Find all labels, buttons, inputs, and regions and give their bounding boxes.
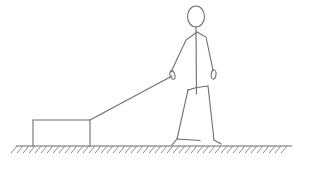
- ground-hatch-line: [71, 146, 77, 153]
- ground-hatch-line: [101, 146, 107, 153]
- ground-hatch-line: [149, 146, 155, 153]
- ground-hatching: [11, 146, 287, 153]
- ground-hatch-line: [203, 146, 209, 153]
- person-group: [169, 6, 221, 145]
- ground-hatch-line: [155, 146, 161, 153]
- right-leg-line: [208, 86, 214, 140]
- left-hand-shape: [169, 70, 176, 80]
- ground-hatch-line: [143, 146, 149, 153]
- ground-hatch-line: [167, 146, 173, 153]
- ground-hatch-line: [113, 146, 119, 153]
- ground-hatch-line: [125, 146, 131, 153]
- left-arm-line: [171, 32, 197, 72]
- ground-hatch-line: [131, 146, 137, 153]
- ground-hatch-line: [233, 146, 239, 153]
- ground-hatch-line: [209, 146, 215, 153]
- ground-hatch-line: [11, 146, 17, 153]
- torso-spine-line: [196, 27, 197, 94]
- ground-hatch-line: [65, 146, 71, 153]
- ground-hatch-line: [185, 146, 191, 153]
- ground-hatch-line: [221, 146, 227, 153]
- right-hand-shape: [211, 70, 217, 80]
- drawing-canvas: Stick figure pulling a box with a rope L…: [0, 0, 309, 172]
- ground-hatch-line: [35, 146, 41, 153]
- head-shape: [188, 6, 205, 27]
- left-foot-line: [172, 139, 177, 145]
- ground-hatch-line: [281, 146, 287, 153]
- ground-hatch-line: [137, 146, 143, 153]
- ground-hatch-line: [89, 146, 95, 153]
- ground-hatch-line: [119, 146, 125, 153]
- ground-hatch-line: [215, 146, 221, 153]
- ground-hatch-line: [191, 146, 197, 153]
- box-group: [33, 120, 90, 146]
- ground-hatch-line: [17, 146, 23, 153]
- ground-hatch-line: [29, 146, 35, 153]
- ground-hatch-line: [227, 146, 233, 153]
- left-leg-line: [177, 90, 188, 139]
- box-outline: [33, 120, 90, 146]
- ground-hatch-line: [95, 146, 101, 153]
- right-arm-line: [197, 32, 213, 70]
- ground-hatch-line: [239, 146, 245, 153]
- ground-hatch-line: [161, 146, 167, 153]
- ground-hatch-line: [107, 146, 113, 153]
- rope-group: [90, 76, 172, 120]
- ground-hatch-line: [197, 146, 203, 153]
- stick-figure-scene: [0, 0, 309, 172]
- ground-hatch-line: [53, 146, 59, 153]
- ground-hatch-line: [251, 146, 257, 153]
- ground-hatch-line: [41, 146, 47, 153]
- ground-hatch-line: [257, 146, 263, 153]
- ground-hatch-line: [269, 146, 275, 153]
- skirt-hem-line: [177, 139, 200, 141]
- rope-line: [90, 76, 172, 120]
- hips-line: [188, 86, 208, 90]
- ground-group: [11, 146, 292, 153]
- ground-hatch-line: [83, 146, 89, 153]
- ground-hatch-line: [179, 146, 185, 153]
- right-foot-line: [214, 140, 221, 144]
- ground-hatch-line: [23, 146, 29, 153]
- ground-hatch-line: [77, 146, 83, 153]
- ground-hatch-line: [47, 146, 53, 153]
- ground-hatch-line: [263, 146, 269, 153]
- ground-hatch-line: [245, 146, 251, 153]
- ground-hatch-line: [173, 146, 179, 153]
- ground-hatch-line: [59, 146, 65, 153]
- ground-hatch-line: [275, 146, 281, 153]
